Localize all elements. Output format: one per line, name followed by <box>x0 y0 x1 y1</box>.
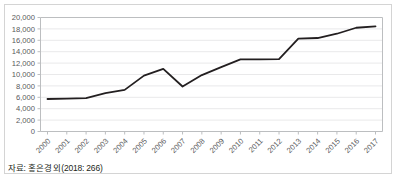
x-axis-tick-label: 2017 <box>362 137 380 155</box>
y-axis-tick-label: 0 <box>31 127 35 136</box>
x-axis-tick-label: 2006 <box>150 137 168 155</box>
y-axis-tick-label: 10,000 <box>12 70 35 79</box>
line-chart: 02,0004,0006,0008,00010,00012,00014,0001… <box>0 0 397 183</box>
x-axis-tick-label: 2001 <box>53 137 71 155</box>
x-axis-labels-group: 2000200120022003200420052006200720082009… <box>34 137 380 155</box>
y-axis-labels-group: 02,0004,0006,0008,00010,00012,00014,0001… <box>12 13 35 136</box>
y-axis-tick-label: 12,000 <box>12 59 35 68</box>
x-axis-tick-label: 2011 <box>247 137 265 155</box>
x-axis-tick-label: 2003 <box>92 137 110 155</box>
x-axis-tick-label: 2010 <box>227 137 245 155</box>
x-axis-tick-label: 2008 <box>188 137 206 155</box>
x-axis-tick-label: 2007 <box>169 137 187 155</box>
x-axis-tick-label: 2000 <box>34 137 52 155</box>
x-axis-tick-label: 2016 <box>343 137 361 155</box>
x-axis-tick-label: 2009 <box>208 137 226 155</box>
y-axis-tick-label: 8,000 <box>16 82 35 91</box>
x-axis-tick-label: 2014 <box>304 137 322 155</box>
y-axis-tick-label: 4,000 <box>16 104 35 113</box>
y-axis-tick-label: 14,000 <box>12 47 35 56</box>
figure-container: 02,0004,0006,0008,00010,00012,00014,0001… <box>0 0 397 183</box>
x-axis-tick-label: 2015 <box>324 137 342 155</box>
x-axis-tick-label: 2013 <box>285 137 303 155</box>
x-axis-tick-label: 2012 <box>266 137 284 155</box>
source-caption: 자료: 홍은경 외(2018: 266) <box>8 161 103 173</box>
x-axis-tick-label: 2004 <box>111 137 129 155</box>
y-axis-tick-label: 18,000 <box>12 25 35 34</box>
x-axis-tick-label: 2002 <box>73 137 91 155</box>
y-axis-tick-label: 2,000 <box>16 116 35 125</box>
x-axis-tick-label: 2005 <box>131 137 149 155</box>
y-axis-tick-label: 6,000 <box>16 93 35 102</box>
y-axis-tick-label: 16,000 <box>12 36 35 45</box>
y-axis-tick-label: 20,000 <box>12 13 35 22</box>
